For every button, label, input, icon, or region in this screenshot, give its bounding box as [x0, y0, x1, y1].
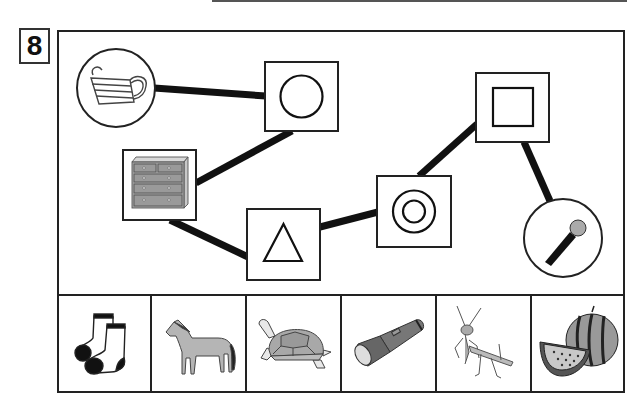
choice-watermelon[interactable]: [532, 296, 625, 393]
line-dresser-triangle: [170, 220, 248, 257]
line-mask-circle: [154, 88, 266, 96]
choice-tortoise[interactable]: [247, 296, 342, 393]
praying-mantis-icon: [441, 302, 527, 388]
line-square-microphone: [524, 142, 550, 201]
line-doublecircle-square: [419, 124, 477, 176]
choice-flashlight[interactable]: [342, 296, 437, 393]
double-circle-shape-node: [377, 176, 451, 247]
line-triangle-doublecircle: [320, 212, 378, 227]
watermelon-icon: [536, 302, 622, 388]
circle-shape-node: [265, 62, 338, 131]
mask-node: [77, 49, 155, 127]
triangle-shape-node: [247, 209, 320, 280]
chest-of-drawers-icon: [132, 157, 188, 208]
horse-icon: [156, 302, 242, 388]
dresser-node: [123, 150, 196, 220]
square-shape-node: [476, 73, 549, 142]
flashlight-icon: [346, 302, 432, 388]
line-circle-dresser: [196, 131, 292, 183]
choice-socks[interactable]: [57, 296, 152, 393]
choice-praying-mantis[interactable]: [437, 296, 532, 393]
tortoise-icon: [251, 302, 337, 388]
choice-horse[interactable]: [152, 296, 247, 393]
microphone-node: [524, 199, 602, 277]
answer-choices-row: [57, 294, 625, 393]
socks-icon: [61, 302, 147, 388]
